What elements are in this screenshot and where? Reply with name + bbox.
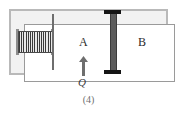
coil-spring-icon bbox=[18, 31, 53, 53]
chamber-label-a: A bbox=[79, 36, 88, 48]
piston-rod-icon bbox=[110, 14, 117, 72]
chamber-label-b: B bbox=[138, 36, 146, 48]
physics-figure: A B Q (4) bbox=[0, 0, 177, 115]
piston-bottom-cap bbox=[104, 70, 121, 74]
figure-caption: (4) bbox=[0, 95, 177, 105]
partition-wall-icon bbox=[52, 14, 54, 70]
heat-label-q: Q bbox=[78, 77, 86, 88]
up-arrow-icon bbox=[79, 56, 88, 76]
